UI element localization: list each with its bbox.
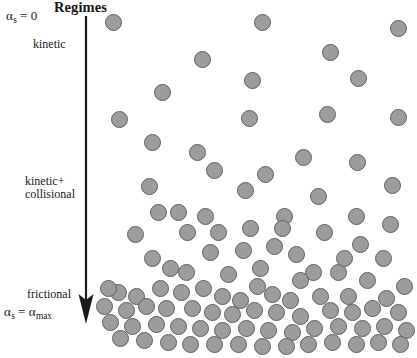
particle xyxy=(266,238,283,255)
regime-label-line2: collisional xyxy=(25,188,75,201)
particle xyxy=(306,320,323,337)
regime-label-line1: kinetic+ xyxy=(25,175,75,188)
label-alpha-s-max: αs = αmax xyxy=(4,305,52,321)
particle xyxy=(254,338,271,355)
downward-gradient-arrow xyxy=(70,10,104,330)
page-title: Regimes xyxy=(54,0,107,16)
particle xyxy=(244,72,261,89)
particle xyxy=(359,272,376,289)
particle xyxy=(340,288,357,305)
particle xyxy=(189,144,206,161)
particle xyxy=(384,177,401,194)
particle xyxy=(152,280,169,297)
alpha-max-symbol: α xyxy=(29,304,36,319)
particle xyxy=(179,224,196,241)
particle xyxy=(282,292,299,309)
particle xyxy=(220,266,237,283)
particle xyxy=(264,286,281,303)
particle xyxy=(214,288,231,305)
particle xyxy=(260,322,277,339)
particle xyxy=(324,334,341,351)
regime-label-kinetic: kinetic xyxy=(33,38,66,51)
alpha-subscript-top: s xyxy=(13,15,17,25)
alpha-max-subscript: max xyxy=(36,311,52,321)
particle xyxy=(178,264,195,281)
particle xyxy=(390,20,407,37)
particle xyxy=(210,224,227,241)
particle xyxy=(300,336,317,353)
particle xyxy=(170,318,187,335)
particle xyxy=(230,336,247,353)
particle xyxy=(390,304,407,321)
particle xyxy=(310,188,327,205)
particle xyxy=(274,220,291,237)
particle xyxy=(322,44,339,61)
particle xyxy=(242,220,259,237)
particle xyxy=(154,84,171,101)
regimes-figure: Regimes αs = 0 kinetic kinetic+ collisio… xyxy=(0,0,417,358)
particle xyxy=(288,246,305,263)
particle xyxy=(141,178,158,195)
particle xyxy=(150,204,167,221)
regime-label-kinetic-collisional: kinetic+ collisional xyxy=(25,175,75,201)
equals-sign: = xyxy=(18,304,25,319)
particle xyxy=(252,260,269,277)
particle xyxy=(352,236,369,253)
label-alpha-s-zero: αs = 0 xyxy=(6,9,37,25)
particle xyxy=(224,306,241,323)
particle xyxy=(144,250,161,267)
particle xyxy=(370,334,387,351)
particle xyxy=(184,300,201,317)
particle xyxy=(292,308,309,325)
particle xyxy=(118,302,135,319)
particle xyxy=(278,338,295,355)
particle xyxy=(376,318,393,335)
particle xyxy=(396,278,413,295)
particle xyxy=(249,278,266,295)
particle xyxy=(235,242,252,259)
particle xyxy=(105,14,122,31)
particle xyxy=(316,224,333,241)
alpha-symbol-top: α xyxy=(6,8,13,23)
particle xyxy=(254,14,271,31)
particle xyxy=(206,336,223,353)
particle xyxy=(319,106,336,123)
particle xyxy=(144,134,161,151)
particle xyxy=(364,300,381,317)
particle xyxy=(354,320,371,337)
particle xyxy=(390,109,407,126)
particle xyxy=(350,70,367,87)
particle xyxy=(295,149,312,166)
alpha-top-value: = 0 xyxy=(20,8,37,23)
particle xyxy=(268,304,285,321)
particle xyxy=(162,260,179,277)
alpha-symbol-bottom: α xyxy=(4,304,11,319)
particle xyxy=(194,51,211,68)
particle xyxy=(292,272,309,289)
particle xyxy=(375,250,392,267)
particle xyxy=(111,111,128,128)
particle xyxy=(257,166,274,183)
particle xyxy=(170,204,187,221)
particle xyxy=(238,320,255,337)
particle xyxy=(322,302,339,319)
particle xyxy=(138,298,155,315)
particle xyxy=(160,334,177,351)
particle xyxy=(182,336,199,353)
particle xyxy=(127,226,144,243)
particle xyxy=(349,154,366,171)
particle xyxy=(206,162,223,179)
particle xyxy=(192,320,209,337)
particle xyxy=(330,318,347,335)
particle xyxy=(344,304,361,321)
particle xyxy=(382,216,399,233)
particle xyxy=(158,300,175,317)
alpha-subscript-bottom: s xyxy=(11,311,15,321)
particle xyxy=(136,332,153,349)
particle xyxy=(237,182,254,199)
particle xyxy=(392,336,409,353)
particle xyxy=(336,250,353,267)
particle xyxy=(348,208,365,225)
particle xyxy=(246,302,263,319)
particle xyxy=(195,280,212,297)
